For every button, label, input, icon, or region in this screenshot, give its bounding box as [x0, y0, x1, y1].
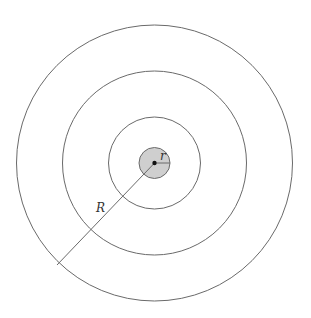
large-radius-label: R — [95, 201, 105, 215]
center-point — [152, 161, 156, 165]
large-radius-line — [57, 163, 155, 265]
concentric-circles-diagram: r R — [0, 0, 311, 318]
